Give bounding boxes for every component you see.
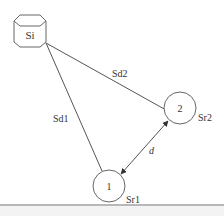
node-2-label: 2: [178, 103, 183, 114]
edge-label-d: d: [149, 145, 155, 156]
edge-label-sd2: Sd2: [112, 68, 128, 79]
edge-si-to-node-1: [46, 43, 102, 171]
edge-label-sd1: Sd1: [53, 113, 69, 124]
node-2: 2 Sr2: [164, 92, 212, 124]
source-node-si: Si: [14, 15, 46, 47]
node-1: 1 Sr1: [93, 170, 140, 205]
edge-si-to-node-2: [46, 43, 166, 110]
node-1-label: 1: [107, 181, 112, 192]
node-2-range-label: Sr2: [198, 112, 212, 123]
distance-arrow-d: [121, 121, 168, 174]
bottom-margin: [0, 206, 224, 216]
network-diagram: Si 1 Sr1 2 Sr2 Sd1 Sd2 d: [0, 0, 224, 216]
source-node-label: Si: [25, 29, 34, 41]
